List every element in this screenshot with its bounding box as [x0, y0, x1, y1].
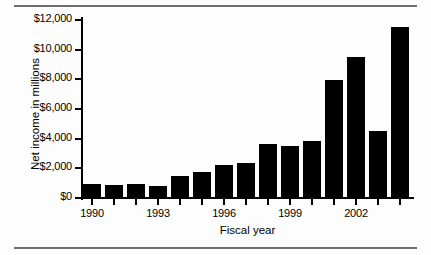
x-tick: [289, 199, 291, 205]
bar: [171, 176, 189, 197]
x-tick-label: 1990: [80, 207, 104, 219]
chart-figure: $0$2,000$4,000$6,000$8,000$10,000$12,000…: [0, 0, 431, 255]
y-tick: [75, 138, 82, 140]
bar: [83, 184, 101, 197]
y-tick: [75, 197, 82, 199]
x-tick: [355, 199, 357, 205]
x-tick: [113, 199, 115, 205]
bar: [259, 144, 277, 197]
x-axis-title: Fiscal year: [81, 224, 414, 236]
x-tick: [333, 199, 335, 205]
y-tick-label: $2,000: [40, 160, 72, 172]
y-tick-label: $8,000: [40, 71, 72, 83]
bar: [347, 57, 365, 197]
x-tick-label: 1999: [278, 207, 302, 219]
y-tick-label: $12,000: [34, 12, 72, 24]
y-tick-label: $6,000: [40, 101, 72, 113]
bar: [237, 163, 255, 197]
x-tick: [157, 199, 159, 205]
plot-area: $0$2,000$4,000$6,000$8,000$10,000$12,000…: [0, 0, 431, 255]
x-tick: [245, 199, 247, 205]
bar: [193, 172, 211, 197]
bar: [281, 146, 299, 197]
bar: [369, 131, 387, 197]
bar: [127, 184, 145, 197]
x-tick: [311, 199, 313, 205]
x-tick: [179, 199, 181, 205]
y-tick: [75, 167, 82, 169]
bar: [325, 80, 343, 197]
x-tick-label: 2002: [344, 207, 368, 219]
bar: [215, 165, 233, 197]
y-axis-title: Net income in millions: [29, 34, 41, 194]
x-tick-label: 1993: [146, 207, 170, 219]
bar: [149, 186, 167, 197]
x-axis-line: [81, 197, 414, 199]
x-tick: [91, 199, 93, 205]
y-tick: [75, 78, 82, 80]
x-tick: [135, 199, 137, 205]
bar: [105, 185, 123, 197]
x-tick: [399, 199, 401, 205]
y-tick: [75, 19, 82, 21]
x-tick: [377, 199, 379, 205]
x-tick: [201, 199, 203, 205]
y-tick-label: $0: [60, 190, 72, 202]
y-tick: [75, 108, 82, 110]
x-tick: [223, 199, 225, 205]
x-tick-label: 1996: [212, 207, 236, 219]
bar: [391, 27, 409, 197]
y-tick: [75, 49, 82, 51]
bar: [303, 141, 321, 197]
x-tick: [267, 199, 269, 205]
y-tick-label: $4,000: [40, 131, 72, 143]
